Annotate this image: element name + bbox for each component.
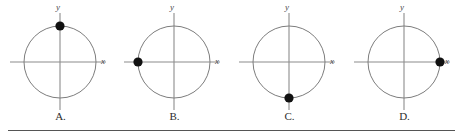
y-axis-label: y <box>56 3 60 12</box>
choice-label-b: B. <box>116 111 231 122</box>
answer-choice-row: x y A. x y B. x y C. <box>0 0 463 130</box>
choice-label-text: C. <box>284 111 294 122</box>
choice-label-text: B. <box>169 111 179 122</box>
choice-label-d: D. <box>346 111 461 122</box>
y-axis-label: y <box>170 3 174 12</box>
x-axis-label: x <box>101 57 105 66</box>
terminal-point-marker <box>284 93 293 102</box>
y-axis-label: y <box>400 3 404 12</box>
x-axis-label: x <box>215 57 219 66</box>
terminal-point-marker <box>435 57 444 66</box>
terminal-point-marker <box>55 21 64 30</box>
answer-choice-b[interactable]: x y B. <box>116 0 231 130</box>
terminal-point-marker <box>133 57 142 66</box>
x-axis-label: x <box>330 57 334 66</box>
x-axis-label: x <box>445 57 449 66</box>
answer-choice-a[interactable]: x y A. <box>2 0 117 130</box>
answer-choice-c[interactable]: x y C. <box>231 0 346 130</box>
choice-label-c: C. <box>231 111 346 122</box>
choice-label-text: A. <box>55 111 66 122</box>
y-axis-label: y <box>285 3 289 12</box>
choice-label-a: A. <box>2 111 117 122</box>
horizontal-divider <box>8 130 455 131</box>
choice-label-text: D. <box>399 111 410 122</box>
answer-choice-d[interactable]: x y D. <box>346 0 461 130</box>
